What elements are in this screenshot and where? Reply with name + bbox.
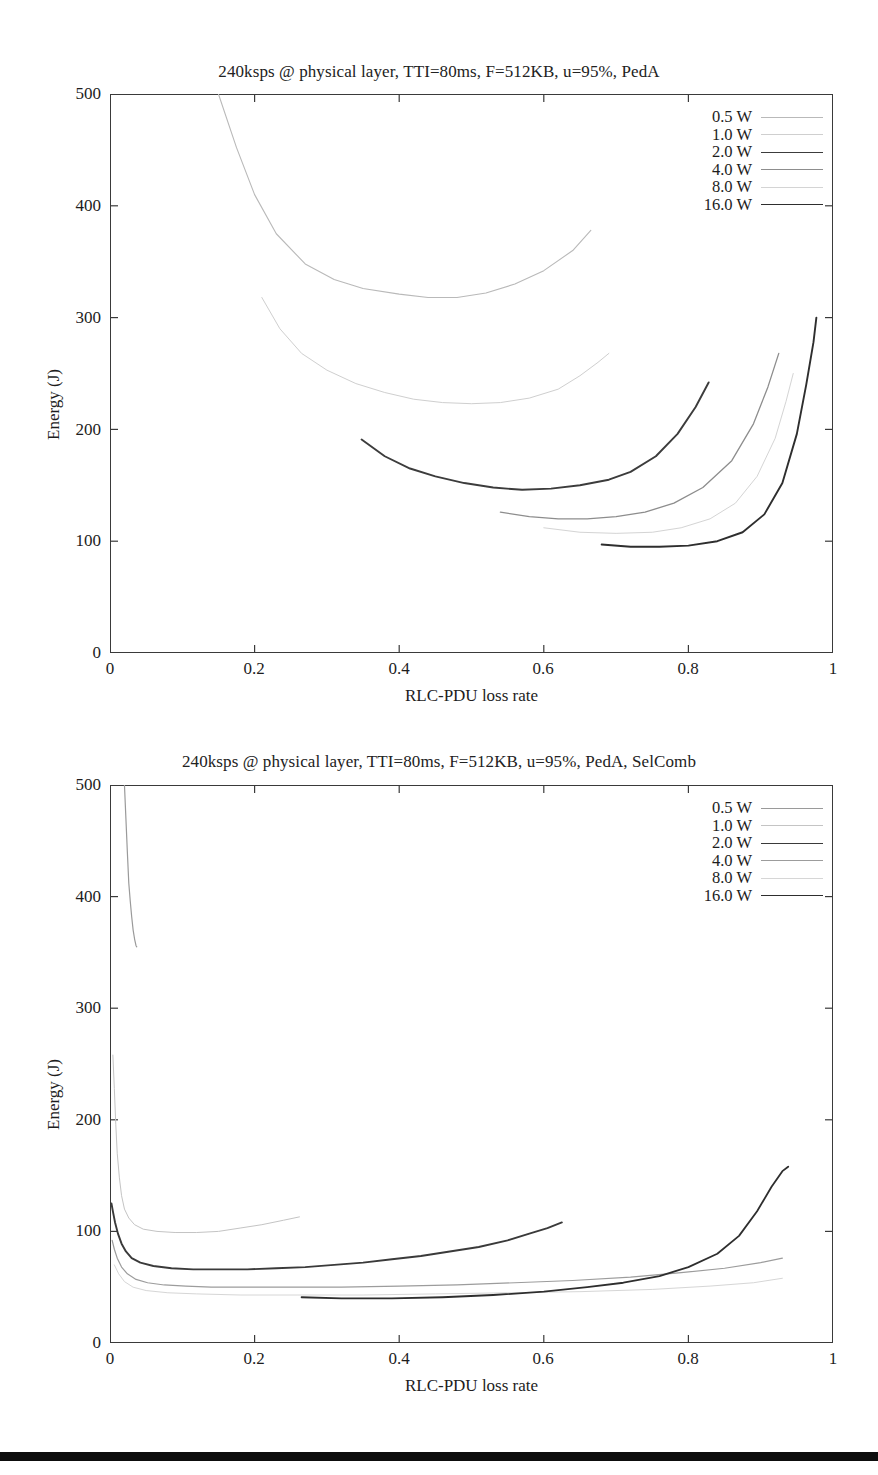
x-tick-label: 0.8	[677, 1349, 698, 1369]
legend-item: 0.5 W	[712, 108, 823, 126]
y-tick-label: 300	[76, 308, 102, 328]
x-tick-label: 0.6	[532, 659, 553, 679]
y-tick-label: 500	[76, 84, 102, 104]
figure-page: 240ksps @ physical layer, TTI=80ms, F=51…	[0, 0, 878, 1475]
legend-label: 2.0 W	[712, 834, 752, 852]
series-line	[500, 353, 778, 518]
legend-label: 8.0 W	[712, 869, 752, 887]
legend-item: 1.0 W	[712, 817, 823, 835]
legend-label: 8.0 W	[712, 178, 752, 196]
legend-label: 0.5 W	[712, 799, 752, 817]
series-line	[111, 1204, 561, 1270]
y-tick-label: 300	[76, 998, 102, 1018]
series-line	[218, 94, 590, 297]
y-tick-label: 0	[93, 643, 102, 663]
legend-label: 16.0 W	[704, 887, 752, 905]
figure-bottom: 240ksps @ physical layer, TTI=80ms, F=51…	[0, 700, 878, 1400]
x-tick-label: 0	[106, 659, 115, 679]
x-tick-label: 0	[106, 1349, 115, 1369]
x-tick-label: 0.4	[388, 659, 409, 679]
y-tick-label: 200	[76, 1110, 102, 1130]
series-line	[262, 297, 609, 403]
x-tick-label: 1	[829, 659, 838, 679]
x-tick-label: 1	[829, 1349, 838, 1369]
legend-item: 16.0 W	[704, 887, 823, 905]
x-tick-label: 0.2	[243, 1349, 264, 1369]
figure-top: 240ksps @ physical layer, TTI=80ms, F=51…	[0, 0, 878, 715]
x-tick-label: 0.4	[388, 1349, 409, 1369]
y-tick-label: 500	[76, 775, 102, 795]
legend-item: 16.0 W	[704, 196, 823, 214]
legend-label: 2.0 W	[712, 143, 752, 161]
legend: 0.5 W1.0 W2.0 W4.0 W8.0 W16.0 W	[640, 108, 823, 213]
series-line	[124, 785, 136, 947]
x-tick-label: 0.8	[677, 659, 698, 679]
y-axis-title: Energy (J)	[44, 1059, 64, 1130]
legend: 0.5 W1.0 W2.0 W4.0 W8.0 W16.0 W	[640, 799, 823, 904]
series-line	[302, 1167, 789, 1299]
legend-label: 4.0 W	[712, 852, 752, 870]
legend-item: 0.5 W	[712, 799, 823, 817]
chart-title: 240ksps @ physical layer, TTI=80ms, F=51…	[0, 62, 878, 82]
y-tick-label: 200	[76, 420, 102, 440]
legend-item: 1.0 W	[712, 126, 823, 144]
legend-label: 16.0 W	[704, 196, 752, 214]
series-line	[602, 318, 817, 547]
series-line	[113, 1055, 300, 1232]
series-line	[544, 374, 793, 534]
x-tick-label: 0.6	[532, 1349, 553, 1369]
legend-item: 2.0 W	[712, 834, 823, 852]
series-line	[362, 382, 709, 489]
legend-item: 4.0 W	[712, 852, 823, 870]
legend-item: 2.0 W	[712, 143, 823, 161]
y-tick-label: 400	[76, 196, 102, 216]
x-axis-title: RLC-PDU loss rate	[110, 1376, 833, 1396]
x-tick-label: 0.2	[243, 659, 264, 679]
chart-title: 240ksps @ physical layer, TTI=80ms, F=51…	[0, 752, 878, 772]
legend-label: 0.5 W	[712, 108, 752, 126]
y-tick-label: 400	[76, 887, 102, 907]
y-axis-title: Energy (J)	[44, 369, 64, 440]
legend-item: 8.0 W	[712, 178, 823, 196]
legend-label: 1.0 W	[712, 126, 752, 144]
legend-label: 1.0 W	[712, 817, 752, 835]
page-bottom-rule	[0, 1452, 878, 1461]
y-tick-label: 0	[93, 1333, 102, 1353]
legend-label: 4.0 W	[712, 161, 752, 179]
legend-item: 4.0 W	[712, 161, 823, 179]
y-tick-label: 100	[76, 531, 102, 551]
legend-item: 8.0 W	[712, 869, 823, 887]
y-tick-label: 100	[76, 1221, 102, 1241]
series-line	[112, 1240, 782, 1287]
